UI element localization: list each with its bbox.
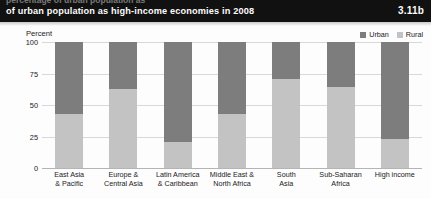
gridline-0 [42, 168, 422, 169]
legend-swatch-urban [360, 32, 366, 38]
y-tick-label-100: 100 [4, 38, 38, 47]
header-cut-off-line: percentage of urban population as [6, 0, 346, 5]
y-tick-label-25: 25 [4, 133, 38, 142]
stacked-bar[interactable] [164, 42, 192, 168]
bar-slot [205, 42, 259, 168]
stacked-bar-series [42, 42, 422, 168]
x-axis-label-line: Africa [313, 180, 367, 189]
x-axis-label-line: Central Asia [96, 180, 150, 189]
stacked-bar[interactable] [109, 42, 137, 168]
bar-slot [42, 42, 96, 168]
x-axis-label-line: Asia [259, 180, 313, 189]
x-axis-label-line: & Caribbean [151, 180, 205, 189]
bar-slot [368, 42, 422, 168]
figure-3-11b: percentage of urban population as of urb… [0, 0, 431, 199]
stacked-bar[interactable] [218, 42, 246, 168]
stacked-bar[interactable] [55, 42, 83, 168]
bar-slot [96, 42, 150, 168]
x-axis-label: East Asia& Pacific [42, 171, 96, 188]
bar-segment-rural[interactable] [164, 142, 192, 168]
stacked-bar[interactable] [272, 42, 300, 168]
x-axis-label: Europe &Central Asia [96, 171, 150, 188]
y-tick-label-0: 0 [4, 164, 38, 173]
legend-item-urban: Urban [360, 30, 389, 39]
legend-item-rural: Rural [397, 30, 423, 39]
figure-number: 3.11b [398, 5, 424, 16]
y-tick-label-75: 75 [4, 70, 38, 79]
x-axis-label: Sub-SaharanAfrica [313, 171, 367, 188]
bar-segment-urban[interactable] [218, 42, 246, 114]
legend-swatch-rural [397, 32, 403, 38]
bar-segment-rural[interactable] [381, 139, 409, 168]
stacked-bar[interactable] [327, 42, 355, 168]
bar-segment-urban[interactable] [381, 42, 409, 139]
y-axis-ticks: 1007550250 [0, 42, 38, 168]
y-tick-label-50: 50 [4, 101, 38, 110]
x-axis-label: Latin America& Caribbean [151, 171, 205, 188]
bar-segment-urban[interactable] [55, 42, 83, 114]
bar-slot [313, 42, 367, 168]
x-axis-label: SouthAsia [259, 171, 313, 188]
chart-legend: Urban Rural [360, 30, 423, 39]
y-axis-title: Percent [26, 29, 52, 38]
figure-header: percentage of urban population as of urb… [0, 0, 431, 22]
bar-segment-rural[interactable] [55, 114, 83, 168]
bar-slot [259, 42, 313, 168]
x-axis-label: Middle East &North Africa [205, 171, 259, 188]
bar-segment-rural[interactable] [327, 87, 355, 168]
x-axis-labels: East Asia& PacificEurope &Central AsiaLa… [42, 171, 422, 188]
bar-segment-rural[interactable] [109, 89, 137, 168]
figure-title: of urban population as high-income econo… [6, 6, 254, 16]
legend-label-urban: Urban [369, 30, 389, 39]
bar-segment-urban[interactable] [109, 42, 137, 89]
bar-segment-urban[interactable] [164, 42, 192, 142]
bar-segment-rural[interactable] [218, 114, 246, 168]
x-axis-label: High income [368, 171, 422, 188]
legend-label-rural: Rural [406, 30, 423, 39]
x-axis-label-line: North Africa [205, 180, 259, 189]
bar-segment-rural[interactable] [272, 79, 300, 168]
stacked-bar[interactable] [381, 42, 409, 168]
x-axis-label-line: High income [368, 171, 422, 180]
x-axis-label-line: & Pacific [42, 180, 96, 189]
bar-segment-urban[interactable] [327, 42, 355, 87]
bar-slot [151, 42, 205, 168]
bar-segment-urban[interactable] [272, 42, 300, 79]
header-shadow [0, 22, 431, 26]
